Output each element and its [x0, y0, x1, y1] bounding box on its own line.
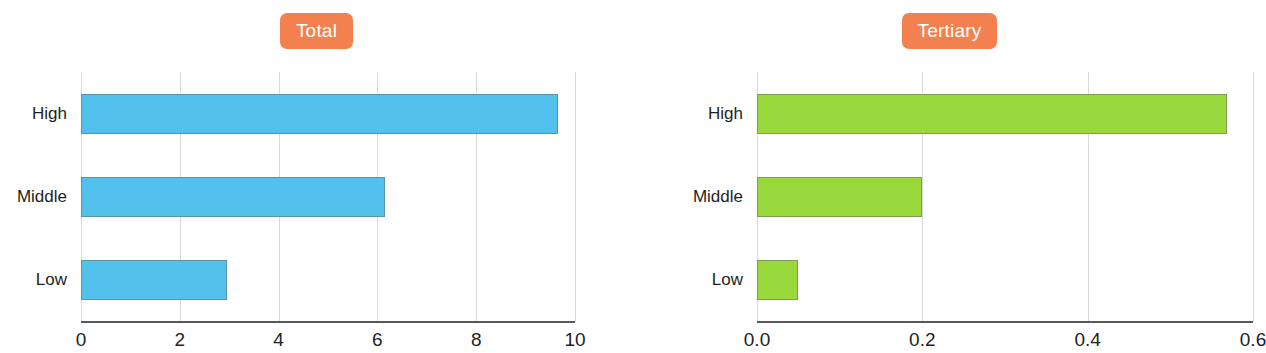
- x-tick-label: 0: [76, 329, 87, 351]
- category-label-low: Low: [36, 270, 67, 290]
- category-label-high: High: [32, 104, 67, 124]
- gridline: [1253, 72, 1254, 322]
- chart-panel-total: Total 0246810HighMiddleLow: [0, 0, 633, 353]
- bar-low: [757, 260, 798, 300]
- x-axis-line-total: [81, 321, 575, 323]
- x-tick-label: 0.6: [1240, 329, 1266, 351]
- category-label-middle: Middle: [693, 187, 743, 207]
- bar-middle: [757, 177, 922, 217]
- panel-title-row-total: Total: [0, 13, 633, 49]
- x-tick-label: 4: [273, 329, 284, 351]
- plot-area-total: 0246810HighMiddleLow: [81, 72, 575, 322]
- x-tick-label: 10: [564, 329, 585, 351]
- gridline: [575, 72, 576, 322]
- bar-chart-figure: Total 0246810HighMiddleLow Tertiary 0.00…: [0, 0, 1266, 353]
- x-tick-label: 0.4: [1074, 329, 1100, 351]
- category-label-middle: Middle: [17, 187, 67, 207]
- chart-panel-tertiary: Tertiary 0.00.20.40.6HighMiddleLow: [633, 0, 1266, 353]
- panel-title-badge-tertiary: Tertiary: [902, 13, 998, 49]
- bar-middle: [81, 177, 385, 217]
- category-label-low: Low: [712, 270, 743, 290]
- x-axis-line-tertiary: [757, 321, 1253, 323]
- panel-title-badge-total: Total: [280, 13, 353, 49]
- x-tick-label: 0.2: [909, 329, 935, 351]
- x-tick-label: 6: [372, 329, 383, 351]
- x-tick-label: 2: [175, 329, 186, 351]
- bar-high: [757, 94, 1227, 134]
- bar-low: [81, 260, 227, 300]
- plot-area-tertiary: 0.00.20.40.6HighMiddleLow: [757, 72, 1253, 322]
- bar-high: [81, 94, 558, 134]
- panel-title-row-tertiary: Tertiary: [633, 13, 1266, 49]
- x-tick-label: 0.0: [744, 329, 770, 351]
- category-label-high: High: [708, 104, 743, 124]
- x-tick-label: 8: [471, 329, 482, 351]
